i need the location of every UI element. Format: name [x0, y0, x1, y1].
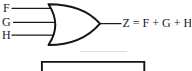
logic-diagram-canvas: F G H Z = F + G + H: [0, 0, 191, 71]
partial-box-outline: [42, 62, 144, 71]
input-label-h: H: [2, 28, 11, 42]
or-gate-icon: [49, 4, 101, 45]
or-gate-diagram: F G H Z = F + G + H: [0, 0, 191, 71]
input-label-f: F: [3, 1, 10, 15]
output-equation: Z = F + G + H: [123, 16, 192, 30]
